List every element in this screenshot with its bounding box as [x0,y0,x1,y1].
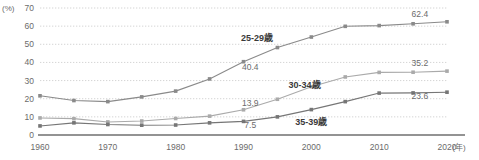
data-value-label: 35.2 [412,58,429,68]
y-axis-tick-label: 10 [25,112,35,122]
y-axis-tick-label: 30 [25,76,35,86]
data-point-marker [445,20,449,24]
data-point-marker [242,108,246,112]
y-axis-tick-label: 50 [25,39,35,49]
data-point-marker [72,121,76,125]
data-value-label: 23.6 [412,91,429,101]
data-point-marker [38,94,42,98]
x-axis-tick-label: 1960 [31,142,50,152]
data-point-marker [140,95,144,99]
data-point-marker [411,70,415,74]
data-point-marker [140,123,144,127]
data-value-label: 62.4 [412,9,429,19]
y-axis-tick-label: 70 [25,3,35,13]
x-axis-tick-label: 2010 [370,142,389,152]
data-point-marker [310,108,314,112]
data-value-label: 7.5 [244,120,256,130]
series-label: 35-39歳 [295,116,327,127]
data-point-marker [208,121,212,125]
data-point-marker [377,24,381,28]
x-axis-tick-label: 1980 [166,142,185,152]
data-point-marker [208,77,212,81]
data-point-marker [38,116,42,120]
data-value-label: 40.4 [242,62,259,72]
data-point-marker [276,46,280,50]
line-chart: 010203040506070(%)1960197019801990200020… [0,0,479,160]
y-axis-tick-label: 40 [25,57,35,67]
data-point-marker [377,91,381,95]
data-point-marker [174,123,178,127]
data-point-marker [377,71,381,75]
data-point-marker [276,115,280,119]
x-axis-tick-label: 2000 [302,142,321,152]
data-point-marker [140,119,144,123]
chart-canvas: 010203040506070(%)1960197019801990200020… [0,0,479,160]
x-axis-unit-label: (年) [452,142,466,152]
data-point-marker [445,69,449,73]
data-point-marker [106,100,110,104]
data-point-marker [343,100,347,104]
data-value-label: 13.9 [242,98,259,108]
data-point-marker [38,124,42,128]
data-point-marker [72,117,76,121]
data-point-marker [72,99,76,103]
data-point-marker [310,35,314,39]
series-label: 25-29歳 [241,32,273,43]
x-axis-tick-label: 1970 [98,142,117,152]
data-point-marker [343,25,347,29]
data-point-marker [174,89,178,93]
y-axis-unit-label: (%) [2,4,15,13]
data-point-marker [208,114,212,118]
data-point-marker [276,97,280,101]
data-point-marker [106,123,110,127]
data-point-marker [411,22,415,26]
x-axis-tick-label: 1990 [234,142,253,152]
y-axis-tick-label: 60 [25,21,35,31]
series-label: 30-34歳 [289,79,321,90]
series-line [40,71,447,122]
y-axis-tick-label: 0 [29,130,34,140]
data-point-marker [445,90,449,94]
data-point-marker [343,75,347,79]
data-point-marker [174,117,178,121]
y-axis-tick-label: 20 [25,94,35,104]
